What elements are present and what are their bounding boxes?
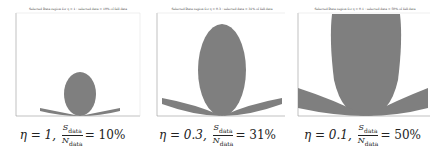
selected-region [298,14,428,116]
panel-eta-0-1: Selected Data region for η = 0.1 : selec… [290,0,435,154]
ratio-value: = 10% [85,128,126,142]
eta-label: η = 0.3, [159,128,207,142]
caption-eta-1: η = 1, SdataNdata = 10% [0,120,145,150]
caption-eta-0-3: η = 0.3, SdataNdata = 31% [145,120,290,150]
panel-eta-0-3: Selected Data region for η = 0.3 : selec… [145,0,290,154]
fraction: SdataNdata [213,123,234,147]
plot-eta-1: Selected Data region for η = 1 : selecte… [0,0,145,125]
eta-label: η = 1, [20,128,56,142]
selected-region [40,72,120,116]
plot-title: Selected Data region for η = 0.1 : selec… [314,7,415,11]
plot-title: Selected Data region for η = 0.3 : selec… [171,7,272,11]
eta-label: η = 0.1, [304,128,352,142]
selected-region [162,24,282,116]
plot-eta-0-3: Selected Data region for η = 0.3 : selec… [145,0,290,125]
fraction: SdataNdata [62,123,83,147]
caption-eta-0-1: η = 0.1, SdataNdata = 50% [290,120,435,150]
plot-eta-0-1: Selected Data region for η = 0.1 : selec… [290,0,435,125]
ratio-value: = 50% [380,128,421,142]
panel-eta-1: Selected Data region for η = 1 : selecte… [0,0,145,154]
plot-title: Selected Data region for η = 1 : selecte… [29,7,127,11]
fraction: SdataNdata [358,123,379,147]
ratio-value: = 31% [235,128,276,142]
